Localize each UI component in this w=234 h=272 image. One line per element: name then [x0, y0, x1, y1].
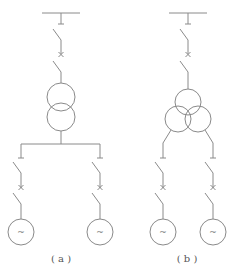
branch-a-right: ~	[87, 144, 113, 245]
branch-a-left: ~	[8, 144, 34, 245]
panel-label-a: ( a )	[51, 253, 71, 264]
disconnector-icon	[13, 162, 21, 173]
panel-label-b: ( b )	[177, 253, 198, 264]
disconnector-icon	[205, 193, 213, 204]
generator-symbol: ~	[159, 227, 167, 237]
branch-b-right: ~	[200, 130, 226, 245]
panel-b: ~ ~ ( b )	[150, 13, 226, 264]
generator-symbol: ~	[96, 227, 104, 237]
disconnector-icon	[53, 29, 61, 40]
transformer-winding-icon	[47, 103, 75, 131]
disconnector-icon	[92, 193, 100, 204]
disconnector-icon	[53, 61, 61, 72]
generator-symbol: ~	[17, 227, 25, 237]
disconnector-icon	[180, 61, 188, 72]
diagram-canvas: ~ ~ ( a )	[0, 0, 234, 272]
disconnector-icon	[180, 29, 188, 40]
disconnector-icon	[205, 162, 213, 173]
generator-symbol: ~	[209, 227, 217, 237]
branch-b-left: ~	[150, 130, 176, 245]
disconnector-icon	[155, 193, 163, 204]
disconnector-icon	[92, 162, 100, 173]
disconnector-icon	[155, 162, 163, 173]
panel-a: ~ ~ ( a )	[8, 13, 113, 264]
disconnector-icon	[13, 193, 21, 204]
